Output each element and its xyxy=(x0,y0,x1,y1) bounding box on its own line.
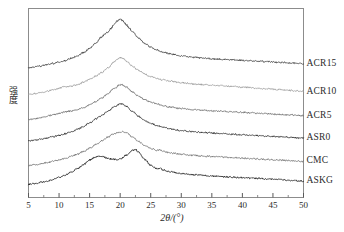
x-tick-label: 45 xyxy=(268,200,277,210)
curve-label-acr10: ACR10 xyxy=(307,86,337,96)
x-tick-label: 25 xyxy=(146,200,155,210)
x-tick-label: 50 xyxy=(299,200,308,210)
x-axis-label: 2θ/(°) xyxy=(0,212,344,223)
y-axis-label: 强度 xyxy=(2,86,18,104)
curve-label-acr5: ACR5 xyxy=(307,110,332,120)
x-tick-label: 40 xyxy=(238,200,247,210)
curve-label-askg: ASKG xyxy=(307,175,334,185)
curve-label-cmc: CMC xyxy=(307,155,329,165)
x-tick-label: 20 xyxy=(116,200,125,210)
plot-area xyxy=(0,0,344,232)
x-tick-label: 30 xyxy=(177,200,186,210)
data-series-line xyxy=(29,19,304,68)
data-series-line xyxy=(29,103,304,141)
xrd-figure: 强度 2θ/(°) ACR15ACR10ACR5ASR0CMCASKG 5101… xyxy=(0,0,344,232)
curve-label-acr15: ACR15 xyxy=(307,58,337,68)
x-tick-label: 10 xyxy=(55,200,64,210)
x-tick-label: 5 xyxy=(26,200,31,210)
data-series-line xyxy=(29,131,304,166)
plot-frame xyxy=(29,9,304,198)
x-tick-label: 35 xyxy=(207,200,216,210)
data-series-line xyxy=(29,149,304,185)
x-axis-label-text: 2θ/(°) xyxy=(160,212,183,223)
x-tick-label: 15 xyxy=(85,200,94,210)
data-series-line xyxy=(29,57,304,94)
curve-label-asr0: ASR0 xyxy=(307,132,331,142)
